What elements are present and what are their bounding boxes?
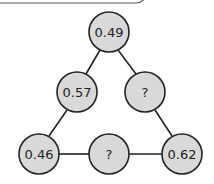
- edge-right-mid-bottom-right: [155, 110, 172, 136]
- node-bottom-right-label: 0.62: [168, 147, 197, 162]
- node-bottom-left: 0.46: [19, 134, 59, 174]
- node-bottom-left-label: 0.46: [25, 147, 54, 162]
- node-left-mid: 0.57: [57, 72, 97, 112]
- edge-top-right-mid: [118, 50, 136, 74]
- node-top-label: 0.49: [95, 25, 124, 40]
- node-left-mid-label: 0.57: [63, 85, 92, 100]
- node-bottom-mid-label: ?: [106, 147, 113, 162]
- edge-left-mid-bottom-left: [49, 110, 67, 136]
- top-text-box-edge: [0, 0, 146, 3]
- node-bottom-right: 0.62: [162, 134, 202, 174]
- node-right-mid-label: ?: [142, 85, 149, 100]
- node-bottom-mid: ?: [89, 134, 129, 174]
- node-right-mid: ?: [125, 72, 165, 112]
- number-triangle-diagram: 0.49 0.57 ? 0.46 ? 0.62: [0, 0, 214, 184]
- node-top: 0.49: [89, 12, 129, 52]
- edge-top-left-mid: [86, 50, 100, 74]
